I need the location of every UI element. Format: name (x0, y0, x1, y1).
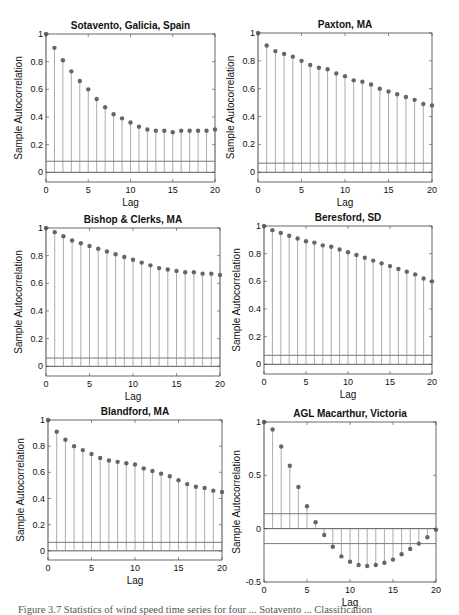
stem-marker (107, 458, 111, 462)
y-tick-label: 0.5 (248, 470, 261, 480)
x-axis-label: Lag (127, 575, 144, 586)
stem-marker (53, 230, 57, 234)
y-tick-label: 0.8 (248, 249, 261, 259)
stem-marker (196, 129, 200, 133)
chart-title: Paxton, MA (318, 19, 372, 30)
x-tick-label: 10 (125, 185, 135, 195)
stem-marker (339, 554, 343, 558)
stem-marker (412, 98, 416, 102)
stem-marker (369, 82, 373, 86)
stem-marker (211, 488, 215, 492)
x-tick-label: 15 (168, 185, 178, 195)
stem-marker (154, 129, 158, 133)
y-tick-label: 0.4 (242, 112, 255, 122)
y-tick-label: 0 (38, 361, 43, 371)
stem-marker (69, 69, 73, 73)
stem-marker (379, 261, 383, 265)
y-tick-label: 0.2 (30, 140, 43, 150)
y-axis-label: Sample Autocorrelation (13, 56, 24, 159)
stem-marker (79, 241, 83, 245)
y-tick-label: 0.6 (32, 467, 45, 477)
y-tick-label: 0.4 (30, 306, 43, 316)
stem-marker (209, 271, 213, 275)
stem-marker (150, 469, 154, 473)
x-tick-label: 0 (261, 377, 266, 387)
stem-marker (321, 243, 325, 247)
stem-marker (299, 59, 303, 63)
stem-marker (287, 233, 291, 237)
x-tick-label: 20 (210, 185, 220, 195)
stem-marker (145, 127, 149, 131)
stem-marker (346, 250, 350, 254)
y-tick-label: 1 (256, 417, 261, 427)
stem-marker (305, 504, 309, 508)
stem-marker (86, 87, 90, 91)
stem-marker (171, 130, 175, 134)
x-axis-label: Lag (122, 197, 139, 208)
stem-marker (176, 478, 180, 482)
y-axis-label: Sample Autocorrelation (15, 438, 26, 541)
y-tick-label: 0.6 (248, 276, 261, 286)
stem-marker (218, 273, 222, 277)
stem-marker (343, 74, 347, 78)
stem-marker (187, 129, 191, 133)
y-tick-label: 0.2 (32, 520, 45, 530)
stem-marker (331, 545, 335, 549)
x-tick-label: 5 (87, 379, 92, 389)
x-tick-label: 15 (171, 379, 181, 389)
x-tick-label: 5 (304, 585, 309, 595)
stem-marker (382, 561, 386, 565)
y-tick-label: 0.4 (30, 112, 43, 122)
y-tick-label: 1 (256, 221, 261, 231)
y-tick-label: 0.4 (248, 304, 261, 314)
stem-marker (120, 116, 124, 120)
stem-marker (87, 244, 91, 248)
acf-panel-agl-macarthur: AGL Macarthur, Victoria05101520-0.500.51… (230, 404, 442, 612)
stem-marker (96, 247, 100, 251)
stem-marker (113, 252, 117, 256)
stem-marker (61, 234, 65, 238)
y-tick-label: 0 (38, 167, 43, 177)
acf-panel-beresford: Beresford, SD0510152000.20.40.60.81LagSa… (230, 208, 438, 404)
stem-marker (308, 63, 312, 67)
x-tick-label: 5 (299, 185, 304, 195)
stem-marker (95, 97, 99, 101)
stem-marker (374, 563, 378, 567)
stem-marker (270, 228, 274, 232)
stem-marker (417, 541, 421, 545)
stem-marker (404, 95, 408, 99)
stem-marker (183, 270, 187, 274)
stem-marker (304, 239, 308, 243)
stem-marker (356, 563, 360, 567)
stem-marker (137, 124, 141, 128)
stem-marker (98, 456, 102, 460)
x-tick-label: 20 (427, 377, 437, 387)
stem-marker (213, 127, 217, 131)
stem-marker (200, 271, 204, 275)
stem-marker (434, 528, 438, 532)
y-tick-label: 0.6 (30, 278, 43, 288)
x-tick-label: 10 (128, 379, 138, 389)
y-tick-label: 0.8 (30, 57, 43, 67)
stem-marker (202, 486, 206, 490)
stem-marker (413, 272, 417, 276)
stem-marker (220, 490, 224, 494)
x-tick-label: 20 (215, 379, 225, 389)
stem-marker (78, 79, 82, 83)
chart-title: Sotavento, Galicia, Spain (71, 20, 190, 31)
stem-marker (388, 264, 392, 268)
stem-marker (296, 485, 300, 489)
stem-marker (55, 430, 59, 434)
stem-marker (115, 460, 119, 464)
stem-marker (179, 129, 183, 133)
stem-marker (61, 58, 65, 62)
x-tick-label: 10 (345, 585, 355, 595)
stem-marker (273, 49, 277, 53)
stem-marker (192, 270, 196, 274)
stem-marker (295, 236, 299, 240)
y-tick-label: 1 (38, 223, 43, 233)
stem-marker (378, 87, 382, 91)
stem-marker (365, 564, 369, 568)
x-tick-label: 10 (340, 185, 350, 195)
stem-marker (337, 247, 341, 251)
